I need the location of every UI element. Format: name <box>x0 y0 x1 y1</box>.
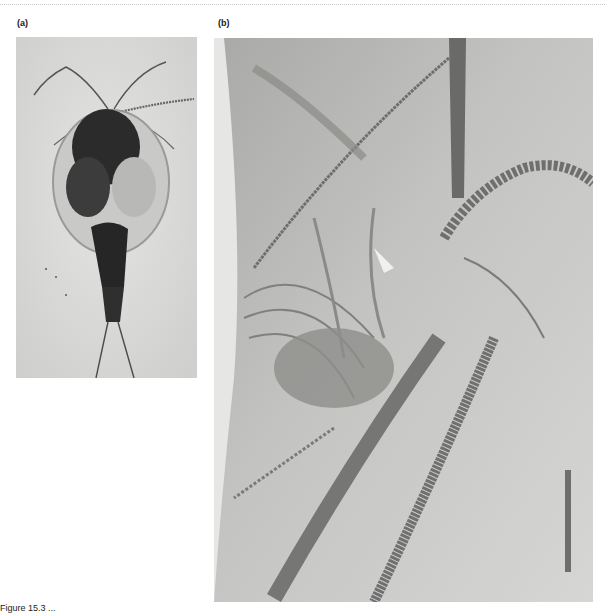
copepod-antennae-closeup-illustration <box>214 38 593 602</box>
scale-bar <box>565 470 571 572</box>
figure-panel-b-image <box>214 38 593 602</box>
copepod-whole-body-illustration <box>16 37 197 378</box>
panel-label-b: (b) <box>218 18 230 28</box>
figure-panel-a-image <box>16 37 197 378</box>
panel-label-a: (a) <box>17 18 28 28</box>
header-rule <box>0 4 605 5</box>
figure-caption: Figure 15.3 ... <box>0 603 605 614</box>
